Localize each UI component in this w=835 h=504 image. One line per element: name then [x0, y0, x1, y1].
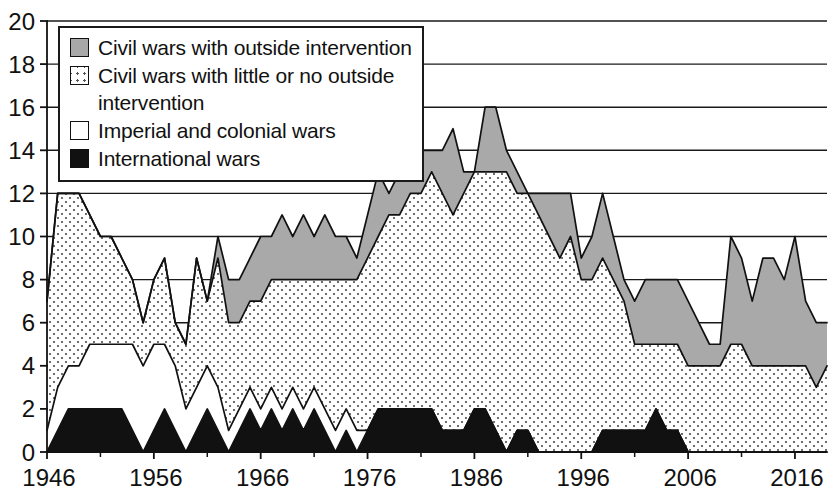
y-tick-label: 12 — [8, 180, 35, 207]
x-tick-label: 2016 — [770, 464, 823, 491]
y-tick-label: 16 — [8, 94, 35, 121]
legend-label: Civil wars with little or no outside int… — [98, 62, 394, 116]
y-tick-label: 2 — [22, 395, 35, 422]
legend-item-international: International wars — [70, 145, 414, 172]
chart-legend: Civil wars with outside intervention Civ… — [58, 26, 424, 182]
legend-label: Civil wars with outside intervention — [98, 34, 412, 61]
y-axis-tick-labels: 02468101214161820 — [8, 8, 35, 466]
x-tick-label: 1976 — [343, 464, 396, 491]
legend-swatch-solid-black-icon — [70, 149, 89, 168]
y-tick-label: 0 — [22, 439, 35, 466]
x-tick-label: 1966 — [236, 464, 289, 491]
y-tick-label: 20 — [8, 8, 35, 35]
legend-swatch-dotted-icon — [70, 66, 89, 85]
legend-item-imperial-colonial: Imperial and colonial wars — [70, 117, 414, 144]
y-tick-label: 18 — [8, 51, 35, 78]
y-tick-label: 4 — [22, 352, 35, 379]
y-tick-label: 10 — [8, 223, 35, 250]
x-tick-label: 1986 — [450, 464, 503, 491]
x-axis-tick-labels: 19461956196619761986199620062016 — [22, 464, 823, 491]
x-tick-label: 2006 — [663, 464, 716, 491]
x-tick-label: 1956 — [129, 464, 182, 491]
war-types-area-chart: 02468101214161820 1946195619661976198619… — [0, 0, 835, 504]
x-tick-label: 1996 — [557, 464, 610, 491]
y-tick-label: 14 — [8, 137, 35, 164]
legend-item-civil-little-or-no-intervention: Civil wars with little or no outside int… — [70, 62, 414, 116]
x-tick-label: 1946 — [22, 464, 75, 491]
legend-item-civil-outside-intervention: Civil wars with outside intervention — [70, 34, 414, 61]
legend-label: Imperial and colonial wars — [98, 117, 336, 144]
legend-swatch-plain-white-icon — [70, 121, 89, 140]
legend-swatch-solid-gray-icon — [70, 38, 89, 57]
legend-label: International wars — [98, 145, 260, 172]
y-tick-label: 8 — [22, 266, 35, 293]
y-tick-label: 6 — [22, 309, 35, 336]
